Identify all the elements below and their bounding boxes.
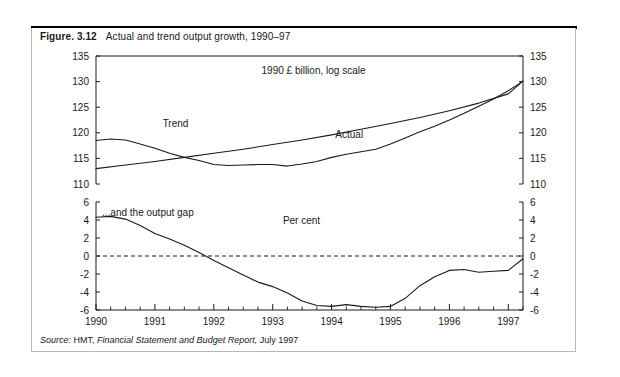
y-tick-label-right: 115: [530, 153, 546, 164]
y-tick-label-left: 125: [72, 102, 89, 113]
y-tick-label-left: 0: [83, 251, 89, 262]
panel-annotation-center: Per cent: [283, 215, 320, 226]
series-line-actual: [96, 81, 523, 166]
x-tick-label: 1992: [203, 316, 226, 327]
y-tick-label-left: 6: [83, 197, 89, 208]
y-tick-label-right: -4: [530, 287, 539, 298]
source-org: HMT,: [74, 335, 95, 345]
x-tick-label: 1996: [438, 316, 461, 327]
x-tick-label: 1993: [262, 316, 285, 327]
source-publication: Financial Statement and Budget Report,: [97, 335, 257, 345]
x-tick-label: 1997: [497, 316, 520, 327]
y-tick-label-right: 120: [530, 127, 547, 138]
figure-container: Figure. 3.12Actual and trend output grow…: [0, 0, 620, 377]
y-tick-label-right: 130: [530, 76, 547, 87]
figure-title: Figure. 3.12Actual and trend output grow…: [40, 31, 290, 42]
figure-caption: Actual and trend output growth, 1990–97: [106, 31, 291, 42]
y-tick-label-right: 6: [530, 197, 536, 208]
figure-source: Source: HMT, Financial Statement and Bud…: [40, 335, 298, 345]
figure-number: Figure. 3.12: [40, 31, 97, 42]
source-date: July 1997: [260, 335, 299, 345]
y-tick-label-right: 135: [530, 51, 547, 62]
x-tick-label: 1995: [379, 316, 402, 327]
y-tick-label-right: 0: [530, 251, 536, 262]
y-tick-label-left: 130: [72, 76, 89, 87]
panel-annotation-left: ...and the output gap: [102, 207, 194, 218]
series-label-trend: Trend: [163, 118, 189, 129]
chart-plot-area: 1101101151151201201251251301301351351990…: [40, 44, 560, 330]
output-gap-panel: -6-6-4-4-2-20022446619901991199219931994…: [80, 197, 539, 327]
y-tick-label-left: 135: [72, 51, 89, 62]
panel-annotation: 1990 £ billion, log scale: [262, 65, 366, 76]
series-line-trend: [96, 81, 523, 169]
y-tick-label-left: 115: [73, 153, 89, 164]
x-tick-label: 1990: [85, 316, 108, 327]
x-tick-label: 1991: [144, 316, 167, 327]
y-tick-label-right: 4: [530, 215, 536, 226]
source-word: Source:: [40, 335, 71, 345]
y-tick-label-left: 110: [73, 179, 89, 190]
y-tick-label-left: 2: [83, 233, 89, 244]
y-tick-label-right: 2: [530, 233, 536, 244]
y-tick-label-right: 110: [530, 179, 546, 190]
y-tick-label-left: -4: [80, 287, 89, 298]
y-tick-label-left: 120: [72, 127, 89, 138]
y-tick-label-left: 4: [83, 215, 89, 226]
output-level-panel: 1101101151151201201251251301301351351990…: [72, 51, 547, 190]
x-tick-label: 1994: [320, 316, 343, 327]
series-label-actual: Actual: [335, 129, 363, 140]
y-tick-label-right: -6: [530, 305, 539, 316]
series-line-output-gap: [96, 216, 523, 307]
y-tick-label-right: 125: [530, 102, 547, 113]
y-tick-label-left: -2: [80, 269, 89, 280]
y-tick-label-right: -2: [530, 269, 539, 280]
y-tick-label-left: -6: [80, 305, 89, 316]
